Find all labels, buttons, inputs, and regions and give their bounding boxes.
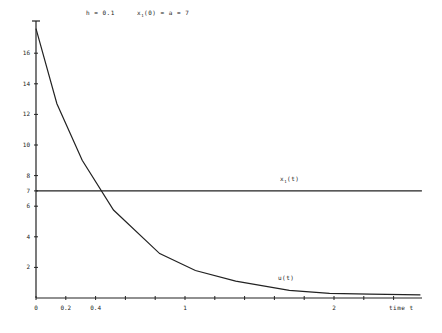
y-tick-label: 16: [23, 49, 31, 56]
chart-canvas: 2467810121416 00.20.412: [0, 0, 442, 333]
y-tick-label: 7: [26, 187, 30, 194]
series-label-x1: x1(t): [280, 175, 299, 184]
x-tick-label: 1: [183, 304, 187, 311]
axes: [32, 21, 422, 298]
x1-rest: (t): [287, 175, 299, 182]
x-tick-label: 0: [34, 304, 38, 311]
y-tick-label: 2: [26, 263, 30, 270]
x-tick-label: 0.4: [90, 304, 101, 311]
initial-rest: (0) = a = 7: [144, 9, 189, 16]
y-tick-label: 4: [26, 233, 30, 240]
x-tick-label: 2: [332, 304, 336, 311]
x-axis-label: time t: [389, 304, 414, 311]
series-label-u: u(t): [278, 274, 294, 281]
y-tick-label: 8: [26, 172, 30, 179]
step-annotation: h = 0.1: [86, 9, 115, 16]
y-tick-label: 14: [23, 80, 31, 87]
y-tick-label: 10: [23, 141, 31, 148]
y-tick-label: 12: [23, 110, 31, 117]
series-line-ut: [36, 29, 420, 295]
initial-condition-annotation: x1(0) = a = 7: [137, 9, 189, 18]
series: [36, 29, 422, 295]
y-tick-label: 6: [26, 202, 30, 209]
x-tick-label: 0.2: [60, 304, 71, 311]
